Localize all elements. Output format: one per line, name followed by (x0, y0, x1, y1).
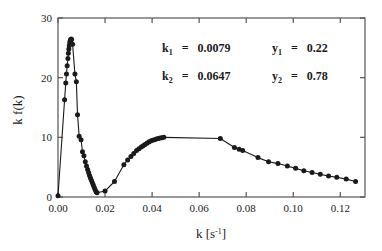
y-axis-label: k f(k) (10, 95, 25, 124)
data-point (103, 189, 108, 194)
figure-container: 0.000.020.040.060.080.100.12 0102030 k [… (0, 0, 382, 251)
data-point (62, 97, 67, 102)
x-tick-label: 0.06 (190, 202, 210, 214)
data-point (218, 136, 223, 141)
data-point (334, 175, 339, 180)
data-point (310, 170, 315, 175)
x-axis-label: k [s-1] (196, 226, 226, 241)
data-point (285, 163, 290, 168)
annotation-k1-value: 0.0079 (198, 41, 231, 55)
y-tick-label: 20 (41, 72, 53, 84)
y-tick-label: 10 (41, 131, 53, 143)
data-point (56, 193, 61, 198)
data-point (65, 56, 70, 61)
data-point (255, 155, 260, 160)
data-point (344, 177, 349, 182)
data-point (79, 137, 84, 142)
data-point (326, 174, 331, 179)
data-point (64, 72, 69, 77)
annotation-y1-value: 0.22 (307, 41, 328, 55)
y-tick-label: 0 (47, 191, 53, 203)
data-point (74, 79, 79, 84)
data-point (293, 166, 298, 171)
annotation-k2: k2 = 0.0647 (162, 69, 231, 85)
data-point (301, 168, 306, 173)
annotation-y2-value: 0.78 (307, 69, 328, 83)
data-point (69, 37, 74, 42)
data-point (318, 172, 323, 177)
x-tick-label: 0.04 (142, 202, 162, 214)
annotation-k2-value: 0.0647 (198, 69, 231, 83)
data-point (240, 148, 245, 153)
data-point (95, 190, 100, 195)
annotation-k1: k1 = 0.0079 (162, 41, 231, 57)
x-tick-label: 0.00 (48, 202, 68, 214)
y-tick-label: 30 (41, 12, 53, 24)
data-point (232, 145, 237, 150)
data-point (121, 162, 126, 167)
x-tick-label: 0.12 (331, 202, 350, 214)
x-axis-label-close: ] (222, 226, 226, 241)
data-point (112, 179, 117, 184)
data-point (161, 135, 166, 140)
data-point (353, 179, 358, 184)
x-tick-label: 0.02 (95, 202, 114, 214)
x-tick-label: 0.10 (284, 202, 304, 214)
data-point (63, 81, 68, 86)
data-point (266, 159, 271, 164)
chart-svg: 0.000.020.040.060.080.100.12 0102030 k [… (0, 0, 382, 251)
data-point (70, 42, 75, 47)
data-point (72, 72, 77, 77)
data-point (65, 63, 70, 68)
x-axis-label-base: k [s (196, 226, 215, 241)
x-tick-label: 0.08 (237, 202, 257, 214)
data-point (81, 153, 86, 158)
x-axis-label-exponent: -1 (215, 227, 222, 236)
data-point (75, 112, 80, 117)
data-point (275, 161, 280, 166)
